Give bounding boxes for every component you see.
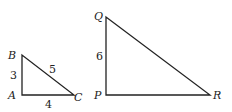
vertex-label-q: Q	[94, 10, 103, 23]
side-label-ac: 4	[45, 98, 52, 111]
triangle-pqr: Q P R 6	[93, 10, 221, 102]
side-label-ab: 3	[10, 69, 17, 82]
vertex-label-p: P	[93, 89, 102, 102]
triangle-pqr-outline	[106, 17, 210, 95]
side-label-bc: 5	[49, 63, 56, 76]
side-label-pq: 6	[96, 50, 103, 63]
vertex-label-r: R	[212, 89, 221, 102]
triangle-abc-outline	[22, 55, 74, 95]
diagram-canvas: B A C 3 5 4 Q P R 6	[0, 0, 232, 112]
triangle-abc: B A C 3 5 4	[7, 49, 83, 111]
vertex-label-b: B	[7, 49, 16, 62]
vertex-label-c: C	[74, 91, 83, 104]
vertex-label-a: A	[7, 89, 16, 102]
